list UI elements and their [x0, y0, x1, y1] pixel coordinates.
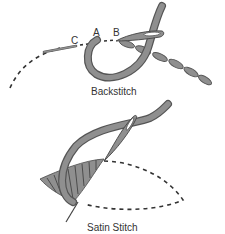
- satin-filled-area: [40, 159, 104, 201]
- backstitch-caption: Backstitch: [91, 86, 137, 97]
- satin-stitch-caption: Satin Stitch: [87, 222, 138, 233]
- backstitch-stitched-chain: [118, 38, 213, 86]
- point-label-a: A: [93, 27, 100, 38]
- point-label-b: B: [113, 27, 120, 38]
- point-label-c: C: [71, 35, 78, 46]
- stitch-diagram: C A B Backstitch: [0, 0, 225, 234]
- satin-stitch-illustration: Satin Stitch: [40, 104, 183, 233]
- backstitch-needle: [116, 31, 164, 41]
- satin-guide-dashed-line: [84, 161, 183, 209]
- backstitch-illustration: C A B Backstitch: [10, 6, 213, 97]
- backstitch-guide-dashed-line: [10, 48, 60, 88]
